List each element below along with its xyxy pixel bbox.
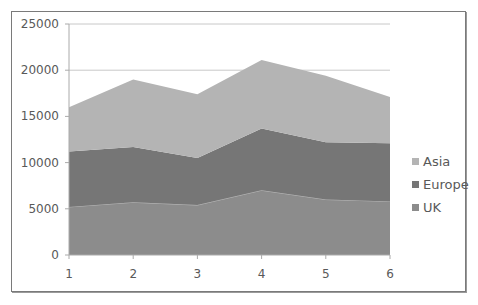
- x-tick-label: 5: [322, 267, 330, 281]
- chart-legend: Asia Europe UK: [412, 150, 469, 219]
- legend-item-uk: UK: [412, 196, 469, 219]
- legend-swatch-asia: [412, 158, 419, 165]
- y-tick-label: 10000: [21, 156, 59, 170]
- y-tick-label: 15000: [21, 109, 59, 123]
- stacked-area-chart: 0500010000150002000025000123456: [0, 0, 478, 305]
- legend-label-europe: Europe: [423, 177, 469, 192]
- legend-label-uk: UK: [423, 200, 441, 215]
- legend-item-asia: Asia: [412, 150, 469, 173]
- legend-swatch-europe: [412, 181, 419, 188]
- x-tick-label: 3: [194, 267, 202, 281]
- legend-item-europe: Europe: [412, 173, 469, 196]
- y-tick-label: 25000: [21, 17, 59, 31]
- x-tick-label: 6: [386, 267, 394, 281]
- y-tick-label: 0: [51, 248, 59, 262]
- legend-swatch-uk: [412, 204, 419, 211]
- y-tick-label: 5000: [28, 202, 59, 216]
- x-tick-label: 4: [258, 267, 266, 281]
- legend-label-asia: Asia: [423, 154, 450, 169]
- x-tick-label: 2: [129, 267, 137, 281]
- x-tick-label: 1: [65, 267, 73, 281]
- y-tick-label: 20000: [21, 63, 59, 77]
